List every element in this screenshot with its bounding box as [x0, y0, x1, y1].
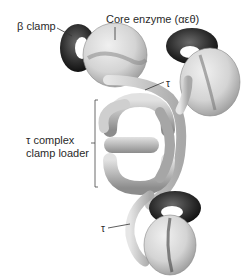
label-beta-clamp: β clamp	[17, 20, 56, 33]
label-tau-bottom: τ	[101, 222, 105, 235]
core-enzyme-bottom	[144, 191, 201, 275]
label-tau-complex: τ complex clamp loader	[26, 134, 89, 160]
label-tau-complex-line1: τ complex	[26, 134, 89, 147]
label-core-enzyme: Core enzyme (αεθ)	[106, 13, 199, 26]
tau-complex-bracket	[91, 100, 98, 187]
label-tau-top: τ	[166, 77, 170, 90]
tau-complex-clamp-loader	[103, 100, 170, 188]
label-tau-complex-line2: clamp loader	[26, 147, 89, 160]
